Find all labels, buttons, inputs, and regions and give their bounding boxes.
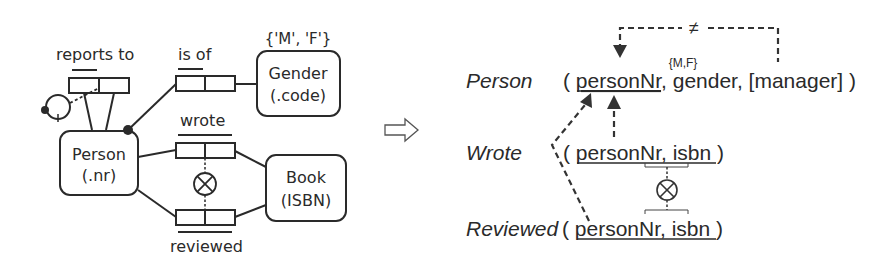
value-constraint: {'M', 'F'} — [265, 30, 332, 48]
open-paren: ( — [563, 69, 576, 92]
fact-reading-reviewed: reviewed — [170, 237, 243, 256]
role-box — [205, 76, 235, 91]
entity-name: Gender — [269, 64, 328, 83]
orm-to-relational-diagram: reports to Person (.nr) is of — [0, 0, 894, 268]
relational-exclusion-constraint — [645, 163, 688, 214]
primary-key: personNr, isbn — [576, 141, 711, 164]
orm-schema: reports to Person (.nr) is of — [41, 30, 346, 256]
open-paren: ( — [562, 217, 575, 240]
primary-key: personNr, isbn — [575, 217, 710, 240]
entity-name: Person — [72, 145, 126, 164]
ring-dot-icon — [41, 106, 49, 114]
fact-reading-wrote: wrote — [180, 111, 225, 130]
entity-ref: (.code) — [270, 86, 326, 105]
role-box — [176, 76, 205, 91]
entity-box — [257, 51, 340, 116]
mandatory-dot-icon — [123, 125, 133, 135]
primary-key: personNr — [576, 69, 662, 92]
fact-reading-reports-to: reports to — [56, 45, 134, 64]
role-connector — [106, 93, 114, 130]
role-box — [99, 78, 129, 93]
role-connector — [235, 151, 266, 167]
table-columns: ( personNr, isbn ) — [563, 141, 724, 164]
role-connector — [138, 190, 176, 217]
entity-book: Book (ISBN) — [266, 155, 346, 221]
table-name: Wrote — [466, 141, 522, 164]
fact-type-reports-to: reports to — [41, 45, 134, 130]
role-connector — [128, 84, 176, 130]
arrowhead-icon — [613, 45, 627, 58]
value-constraint: {M,F} — [669, 56, 698, 70]
entity-ref: (.nr) — [82, 166, 116, 185]
mapping-arrow-icon — [385, 119, 418, 141]
table-name: Reviewed — [466, 217, 560, 240]
inequality-symbol: ≠ — [689, 18, 699, 38]
table-reviewed: Reviewed ( personNr, isbn ) — [466, 217, 723, 240]
table-columns: ( personNr, gender, [manager] ) — [563, 69, 856, 92]
entity-box — [266, 155, 346, 221]
role-box — [205, 143, 235, 158]
role-box — [176, 143, 205, 158]
exclusion-constraint — [194, 158, 216, 210]
role-box — [69, 78, 99, 93]
fact-type-reviewed: reviewed — [138, 190, 266, 256]
close-paren: ) — [710, 217, 723, 240]
fact-reading-is-of: is of — [178, 45, 212, 64]
role-box — [205, 210, 235, 225]
entity-gender: {'M', 'F'} Gender (.code) — [257, 30, 340, 116]
entity-person: Person (.nr) — [60, 131, 138, 195]
role-connector — [84, 93, 92, 130]
role-connector — [138, 150, 176, 157]
bracket — [645, 210, 688, 214]
table-name: Person — [466, 69, 533, 92]
entity-name: Book — [286, 168, 327, 187]
arrowhead-icon — [580, 93, 592, 108]
role-connector — [235, 205, 266, 217]
close-paren: ) — [711, 141, 724, 164]
other-columns: , gender, [manager] ) — [661, 69, 856, 92]
role-box — [176, 210, 205, 225]
table-columns: ( personNr, isbn ) — [562, 217, 723, 240]
fact-type-wrote: wrote — [138, 111, 266, 167]
entity-ref: (ISBN) — [281, 191, 331, 210]
open-paren: ( — [563, 141, 576, 164]
relational-schema: ≠ {M,F} Person ( personNr, gender, [mana… — [466, 18, 856, 240]
arrowhead-icon — [607, 95, 621, 109]
table-wrote: Wrote ( personNr, isbn ) — [466, 141, 724, 164]
table-person: {M,F} Person ( personNr, gender, [manage… — [466, 56, 856, 92]
